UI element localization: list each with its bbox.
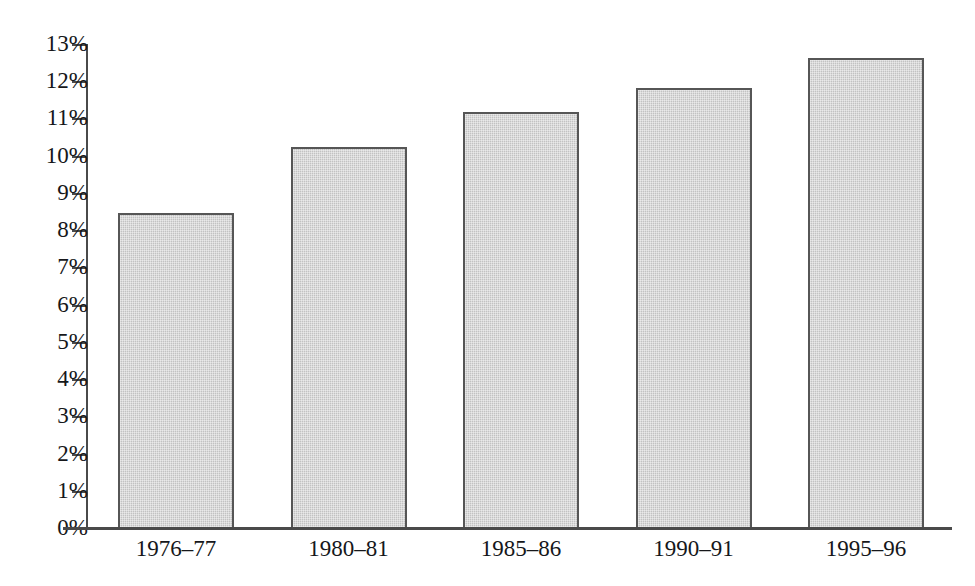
bar-chart: 0%1%2%3%4%5%6%7%8%9%10%11%12%13% 1976–77… <box>0 0 975 586</box>
plot-area <box>88 45 952 529</box>
y-axis-tick-label: 11% <box>22 106 88 129</box>
y-axis-tick-label: 7% <box>22 255 88 278</box>
x-axis-category-label: 1980–81 <box>291 536 407 561</box>
y-axis-tick-label: 5% <box>22 330 88 353</box>
y-axis-tick-label: 13% <box>22 32 88 55</box>
bar <box>463 112 579 529</box>
x-axis-category-label: 1995–96 <box>808 536 924 561</box>
bar <box>808 58 924 529</box>
bar <box>636 88 752 529</box>
y-axis-tick-label: 1% <box>22 479 88 502</box>
y-axis-tick-label: 8% <box>22 218 88 241</box>
y-axis-tick-label: 6% <box>22 293 88 316</box>
y-axis-tick-label: 3% <box>22 404 88 427</box>
x-axis-line <box>63 527 952 530</box>
bar <box>291 147 407 529</box>
x-axis-category-label: 1985–86 <box>463 536 579 561</box>
x-axis-category-label: 1976–77 <box>118 536 234 561</box>
y-axis-tick-label: 4% <box>22 367 88 390</box>
x-axis-category-label: 1990–91 <box>636 536 752 561</box>
y-axis-tick-label: 12% <box>22 69 88 92</box>
bar <box>118 213 234 529</box>
y-axis-tick-label: 2% <box>22 442 88 465</box>
y-axis-tick-label: 10% <box>22 144 88 167</box>
y-axis-tick-label: 9% <box>22 181 88 204</box>
